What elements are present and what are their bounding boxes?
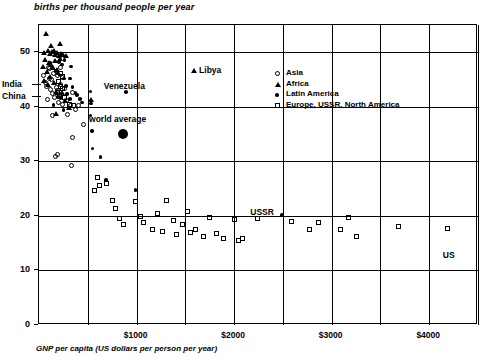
gridline-vertical <box>429 25 430 325</box>
data-point-africa <box>47 74 53 79</box>
scatter-chart-figure: births per thousand people per year 0102… <box>0 0 484 360</box>
annotation-india: India <box>2 79 22 89</box>
data-point-world-average <box>118 129 128 139</box>
data-point-europe-ussr-north-america <box>240 236 245 241</box>
data-point-europe-ussr-north-america <box>117 216 122 221</box>
annotation-libya: Libya <box>199 65 221 75</box>
annotation-us: US <box>443 250 455 260</box>
data-point-europe-ussr-north-america <box>121 222 126 227</box>
legend-item-latin-america: Latin America <box>274 89 400 100</box>
data-point-europe-ussr-north-america <box>155 211 160 216</box>
data-point-europe-ussr-north-america <box>92 188 97 193</box>
data-point-europe-ussr-north-america <box>338 227 343 232</box>
data-point-europe-ussr-north-america <box>71 103 76 108</box>
data-point-europe-ussr-north-america <box>185 209 190 214</box>
annotation-china: China <box>2 91 26 101</box>
annotation-ussr: USSR <box>250 207 274 217</box>
y-axis-tick-label: 40 <box>6 101 30 111</box>
y-axis-tick-label: 50 <box>6 46 30 56</box>
data-point-europe-ussr-north-america <box>104 181 109 186</box>
data-point-europe-ussr-north-america <box>201 234 206 239</box>
data-point-europe-ussr-north-america <box>445 226 450 231</box>
data-point-europe-ussr-north-america <box>160 229 165 234</box>
y-axis-tick-mark <box>34 215 38 216</box>
data-point-europe-ussr-north-america <box>354 234 359 239</box>
x-axis-tick-label: $2000 <box>203 330 263 340</box>
y-axis-tick-label: 0 <box>6 319 30 329</box>
data-point-latin-america <box>62 108 66 112</box>
data-point-europe-ussr-north-america <box>60 74 65 79</box>
legend-marker-filled-dot-icon <box>275 93 279 97</box>
annotation-leader-line <box>32 96 41 97</box>
data-point-europe-ussr-north-america <box>113 206 118 211</box>
data-point-latin-america <box>99 155 103 159</box>
data-point-europe-ussr-north-america <box>193 227 198 232</box>
x-axis-tick-label: $4000 <box>398 330 458 340</box>
data-point-latin-america <box>80 101 84 105</box>
y-axis-tick-mark <box>34 324 38 325</box>
data-point-latin-america <box>75 93 79 97</box>
legend-item-europe-ussr-north-america: Europe, USSR, North America <box>274 100 400 111</box>
data-point-asia <box>69 163 74 168</box>
data-point-latin-america <box>280 213 284 217</box>
data-point-europe-ussr-north-america <box>289 219 294 224</box>
data-point-europe-ussr-north-america <box>307 227 312 232</box>
x-axis-tick-label: $1000 <box>106 330 166 340</box>
data-point-europe-ussr-north-america <box>60 86 65 91</box>
x-axis-title: GNP per capita (US dollars per person pe… <box>36 344 217 353</box>
data-point-latin-america <box>60 63 64 67</box>
data-point-africa <box>57 41 63 46</box>
data-point-latin-america <box>63 58 67 62</box>
legend-item-asia: Asia <box>274 68 400 79</box>
data-point-europe-ussr-north-america <box>174 232 179 237</box>
gridline-horizontal <box>39 52 478 53</box>
data-point-latin-america <box>134 188 138 192</box>
y-axis-tick-mark <box>34 106 38 107</box>
data-point-europe-ussr-north-america <box>62 95 67 100</box>
y-axis-tick-label: 10 <box>6 264 30 274</box>
data-point-europe-ussr-north-america <box>150 227 155 232</box>
data-point-africa <box>53 111 59 116</box>
legend-item-label: Africa <box>286 79 309 88</box>
data-point-europe-ussr-north-america <box>141 220 146 225</box>
data-point-europe-ussr-north-america <box>207 215 212 220</box>
legend-item-africa: Africa <box>274 79 400 90</box>
data-point-latin-america <box>52 103 56 107</box>
data-point-europe-ussr-north-america <box>138 214 143 219</box>
data-point-europe-ussr-north-america <box>221 236 226 241</box>
data-point-europe-ussr-north-america <box>214 231 219 236</box>
gridline-vertical <box>478 25 479 325</box>
data-point-africa <box>191 68 197 73</box>
data-point-africa <box>88 97 94 102</box>
y-axis-tick-label: 30 <box>6 155 30 165</box>
legend-marker-open-circle-icon <box>275 71 280 76</box>
data-point-europe-ussr-north-america <box>232 217 237 222</box>
data-point-europe-ussr-north-america <box>396 224 401 229</box>
plot-area <box>38 24 477 324</box>
legend-item-label: Europe, USSR, North America <box>286 100 400 109</box>
data-point-asia <box>65 112 70 117</box>
legend-marker-open-square-icon <box>275 103 280 108</box>
data-point-europe-ussr-north-america <box>171 218 176 223</box>
data-point-europe-ussr-north-america <box>110 198 115 203</box>
data-point-africa <box>43 31 49 36</box>
data-point-europe-ussr-north-america <box>180 222 185 227</box>
gridline-horizontal <box>39 270 478 271</box>
gridline-vertical <box>185 25 186 325</box>
data-point-europe-ussr-north-america <box>95 175 100 180</box>
y-axis-tick-label: 20 <box>6 210 30 220</box>
gridline-vertical <box>137 25 138 325</box>
data-point-asia <box>45 97 50 102</box>
legend-item-label: Latin America <box>286 89 339 98</box>
data-point-africa <box>40 64 46 69</box>
chart-title: births per thousand people per year <box>34 2 195 12</box>
x-axis-tick-label: $3000 <box>301 330 361 340</box>
legend-marker-triangle-icon <box>275 82 281 87</box>
y-axis-tick-mark <box>34 51 38 52</box>
y-axis-tick-mark <box>34 269 38 270</box>
data-point-europe-ussr-north-america <box>164 198 169 203</box>
data-point-latin-america <box>90 129 94 133</box>
gridline-vertical <box>88 25 89 325</box>
chart-legend: AsiaAfricaLatin AmericaEurope, USSR, Nor… <box>274 68 400 110</box>
y-axis-tick-mark <box>34 160 38 161</box>
